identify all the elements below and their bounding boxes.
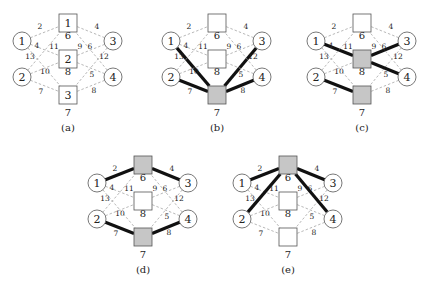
edge-weight-label: 10 [334,67,344,76]
facility-cost-label: 6 [140,172,146,183]
edge-weight-label: 5 [90,70,95,79]
client-circle-label: 4 [404,71,411,84]
edge-weight-label: 4 [170,164,175,173]
edge-weight-label: 13 [25,52,35,61]
edge-c2-s3-selected [105,222,134,233]
panel-d: 24131110746129586871234(d) [88,156,197,275]
client-circle-label: 4 [330,213,337,226]
client-circle-label: 2 [19,71,26,84]
edge-weight-label: 10 [189,67,199,76]
facility-cost-label: 7 [214,107,220,118]
edge-c1-s1 [179,27,208,38]
edge-weight-label: 5 [310,212,315,221]
edge-weight-label: 9 [372,42,377,51]
client-circle-label: 4 [110,71,117,84]
client-circle-label: 1 [168,35,175,48]
edge-c1-s1 [324,27,353,38]
edge-weight-label: 10 [260,209,270,218]
client-circle-label: 1 [19,35,26,48]
client-circle-label: 3 [259,35,266,48]
edge-weight-label: 8 [92,86,97,95]
panel-a: 24131110746129581628371234(a) [13,14,122,133]
facility-square-3-open [208,86,226,104]
edge-weight-label: 9 [298,184,303,193]
edge-c3-s1 [371,27,399,38]
client-circle-label: 1 [313,35,320,48]
edge-c2-s3-selected [179,80,208,91]
facility-cost-label: 8 [140,208,146,219]
edge-c3-s1-selected [152,169,180,180]
client-circle-label: 3 [110,35,117,48]
edge-weight-label: 5 [239,70,244,79]
panel-caption: (b) [210,122,224,133]
edge-weight-label: 9 [153,184,158,193]
edge-weight-label: 10 [40,67,50,76]
edge-c1-s1 [30,27,59,38]
edge-weight-label: 10 [115,209,125,218]
edge-weight-label: 4 [110,183,115,192]
edge-weight-label: 8 [312,228,317,237]
facility-cost-label: 8 [214,66,220,77]
facility-square-label: 2 [65,53,72,66]
edge-weight-label: 13 [245,194,255,203]
edge-weight-label: 2 [258,164,263,173]
client-circle-label: 3 [185,177,192,190]
client-circle-label: 3 [330,177,337,190]
edge-weight-label: 4 [35,41,40,50]
facility-square-label: 1 [65,17,72,30]
edge-weight-label: 4 [255,183,260,192]
edge-weight-label: 4 [244,22,249,31]
facility-cost-label: 6 [65,30,71,41]
facility-cost-label: 8 [359,66,365,77]
panel-caption: (d) [136,264,150,275]
facility-square-3-open [353,86,371,104]
facility-cost-label: 7 [359,107,365,118]
edge-weight-label: 2 [187,22,192,31]
edge-weight-label: 12 [99,52,109,61]
edge-weight-label: 4 [315,164,320,173]
edge-c3-s1 [226,27,254,38]
client-circle-label: 1 [239,177,246,190]
edge-weight-label: 13 [319,52,329,61]
edge-weight-label: 12 [319,194,329,203]
facility-cost-label: 6 [214,30,220,41]
facility-cost-label: 6 [359,30,365,41]
facility-cost-label: 8 [285,208,291,219]
edge-weight-label: 6 [382,42,387,51]
edge-c3-s1 [77,27,105,38]
edge-weight-label: 8 [167,228,172,237]
edge-weight-label: 8 [386,86,391,95]
panel-e: 24131110746129586871234(e) [233,156,342,275]
edge-weight-label: 7 [259,229,264,238]
edge-weight-label: 12 [393,52,403,61]
edge-c1-s1-selected [250,169,279,180]
edge-weight-label: 11 [269,184,279,193]
edge-weight-label: 13 [174,52,184,61]
facility-location-figure: 24131110746129581628371234(a) 2413111074… [0,0,428,288]
edge-weight-label: 6 [163,184,168,193]
edge-weight-label: 2 [38,22,43,31]
edge-weight-label: 9 [78,42,83,51]
edge-weight-label: 4 [95,22,100,31]
edge-weight-label: 9 [227,42,232,51]
edge-weight-label: 11 [49,42,59,51]
facility-square-label: 3 [65,89,72,102]
edge-weight-label: 8 [241,86,246,95]
edge-weight-label: 12 [248,52,258,61]
facility-square-3-open [134,228,152,246]
edge-weight-label: 4 [389,22,394,31]
panel-caption: (a) [61,122,75,133]
edge-weight-label: 2 [332,22,337,31]
facility-cost-label: 7 [285,249,291,260]
client-circle-label: 4 [259,71,266,84]
client-circle-label: 2 [94,213,101,226]
client-circle-label: 2 [313,71,320,84]
edge-weight-label: 5 [165,212,170,221]
edge-weight-label: 11 [198,42,208,51]
edge-c1-s1-selected [105,169,134,180]
panel-caption: (e) [281,264,295,275]
panel-c: 24131110746129586871234(c) [307,14,416,133]
facility-cost-label: 6 [285,172,291,183]
edge-weight-label: 7 [39,87,44,96]
edge-weight-label: 7 [333,87,338,96]
